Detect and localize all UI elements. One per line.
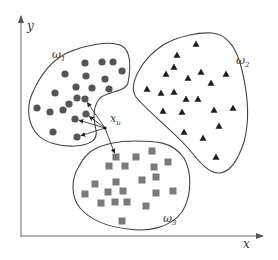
neighbor-arrow <box>79 120 105 128</box>
omega2-triangle-point <box>181 129 188 135</box>
omega1-circle-point <box>118 67 125 74</box>
omega2-triangle-point <box>171 64 178 70</box>
omega3-square-point <box>119 218 126 225</box>
omega1-circle-point <box>59 106 66 113</box>
omega3-square-point <box>139 177 146 184</box>
x-axis-label: x <box>243 237 250 251</box>
omega3-square-point <box>113 179 120 186</box>
omega1-circle-point <box>82 110 89 117</box>
omega2-triangle-point <box>163 71 170 77</box>
omega2-triangle-point <box>211 107 218 113</box>
omega1-circle-point <box>49 128 56 135</box>
omega2-triangle-point <box>230 105 237 111</box>
omega3-square-point <box>149 148 156 155</box>
omega1-circle-point <box>46 108 53 115</box>
omega2-triangle-point <box>183 96 190 102</box>
class-markers <box>33 41 236 225</box>
omega1-circle-point <box>65 100 72 107</box>
omega2-triangle-point <box>198 69 205 75</box>
omega2-triangle-point <box>185 75 192 81</box>
omega2-triangle-point <box>144 86 151 92</box>
omega1-circle-point <box>109 58 116 65</box>
omega3-square-point <box>112 199 119 206</box>
omega1-circle-point <box>72 83 79 90</box>
omega3-label: ω3 <box>163 212 177 227</box>
omega1-circle-point <box>73 133 80 140</box>
omega2-triangle-point <box>213 154 220 160</box>
knn-arrows <box>79 103 114 153</box>
omega3-square-point <box>106 163 113 170</box>
omega3-boundary <box>73 141 190 230</box>
omega1-circle-point <box>98 58 105 65</box>
diagram-svg: y x xu ω1 ω2 ω3 <box>0 0 278 260</box>
omega3-square-point <box>92 181 99 188</box>
omega3-square-point <box>170 188 177 195</box>
neighbor-arrow <box>105 128 114 153</box>
omega2-triangle-point <box>208 80 215 86</box>
omega3-square-point <box>153 174 160 181</box>
neighbor-arrow <box>88 103 105 128</box>
omega2-triangle-point <box>223 71 230 77</box>
omega1-circle-point <box>71 115 78 122</box>
omega3-square-point <box>98 200 105 207</box>
omega1-circle-point <box>82 72 89 79</box>
omega2-triangle-point <box>193 41 200 47</box>
omega3-square-point <box>153 190 160 197</box>
omega2-triangle-point <box>171 89 178 95</box>
omega1-circle-point <box>51 89 58 96</box>
omega3-square-point <box>124 199 131 206</box>
omega1-circle-point <box>73 94 80 101</box>
omega2-triangle-point <box>160 108 167 114</box>
omega3-square-point <box>133 154 140 161</box>
omega3-square-point <box>82 191 89 198</box>
omega3-square-point <box>105 189 112 196</box>
omega3-square-point <box>122 163 129 170</box>
omega2-triangle-point <box>195 96 202 102</box>
omega1-label: ω1 <box>52 48 65 63</box>
omega3-square-point <box>151 164 158 171</box>
omega1-circle-point <box>88 84 95 91</box>
omega2-triangle-point <box>216 123 223 129</box>
omega3-square-point <box>113 154 120 161</box>
omega1-circle-point <box>61 70 68 77</box>
omega2-triangle-point <box>158 90 165 96</box>
neighbor-arrow <box>81 128 105 136</box>
omega1-circle-point <box>81 95 88 102</box>
neighbor-arrow <box>90 117 105 128</box>
omega2-label: ω2 <box>236 54 250 69</box>
omega1-circle-point <box>81 59 88 66</box>
knn-classification-diagram: y x xu ω1 ω2 ω3 <box>0 0 278 260</box>
omega1-circle-point <box>101 75 108 82</box>
omega2-triangle-point <box>200 135 207 141</box>
test-point-xu: xu <box>103 112 121 130</box>
y-axis-label: y <box>26 19 34 33</box>
omega2-triangle-point <box>174 52 181 58</box>
omega3-square-point <box>165 159 172 166</box>
omega1-circle-point <box>105 85 112 92</box>
omega1-circle-point <box>33 104 40 111</box>
test-point-label: xu <box>110 112 121 127</box>
omega3-square-point <box>143 203 150 210</box>
omega3-square-point <box>120 188 127 195</box>
omega2-triangle-point <box>179 109 186 115</box>
